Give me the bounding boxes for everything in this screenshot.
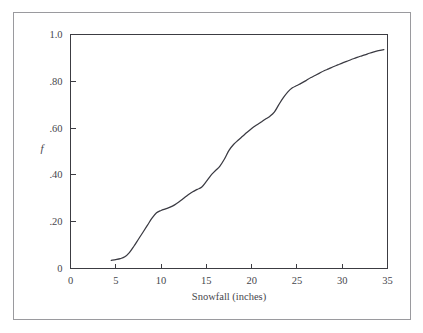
x-tick-label-25: 25 <box>292 275 303 286</box>
x-tick-label-15: 15 <box>201 275 212 286</box>
x-tick-label-35: 35 <box>382 275 393 286</box>
y-tick-label-0: 0 <box>57 263 62 274</box>
y-tick-label-.40: .40 <box>49 169 62 180</box>
x-tick-label-20: 20 <box>246 275 257 286</box>
x-axis-tick-labels: 05101520253035 <box>68 275 393 286</box>
y-tick-label-.60: .60 <box>49 123 62 134</box>
x-tick-label-30: 30 <box>337 275 348 286</box>
figure-root: 05101520253035 0.20.40.60.801.0 Snowfall… <box>0 0 423 333</box>
y-axis-title: f <box>40 142 45 154</box>
y-tick-label-.80: .80 <box>49 76 62 87</box>
cumulative-frequency-curve <box>111 50 384 261</box>
y-tick-label-1.0: 1.0 <box>49 29 62 40</box>
y-tick-label-.20: .20 <box>49 216 62 227</box>
x-tick-label-0: 0 <box>68 275 73 286</box>
y-axis-tick-marks <box>71 81 76 221</box>
x-axis-title: Snowfall (inches) <box>192 291 267 303</box>
x-tick-label-10: 10 <box>156 275 167 286</box>
y-axis-tick-labels: 0.20.40.60.801.0 <box>49 29 62 274</box>
x-axis-tick-marks <box>71 264 388 269</box>
x-tick-label-5: 5 <box>113 275 118 286</box>
snowfall-ogive-chart: 05101520253035 0.20.40.60.801.0 Snowfall… <box>0 0 423 333</box>
